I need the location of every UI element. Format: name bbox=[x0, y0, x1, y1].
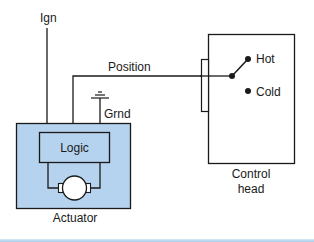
control-head-box bbox=[209, 35, 295, 164]
control-head-tab bbox=[202, 60, 209, 112]
switch-pivot bbox=[229, 73, 235, 79]
actuator-label: Actuator bbox=[53, 211, 98, 225]
position-label: Position bbox=[108, 60, 151, 74]
hot-label: Hot bbox=[256, 52, 275, 66]
control-head-label-line2: head bbox=[238, 182, 265, 196]
cold-contact bbox=[245, 88, 251, 94]
ignition-label: Ign bbox=[40, 11, 57, 25]
actuator-control-diagram: Ign Position Grnd Logic bbox=[0, 0, 314, 242]
logic-label: Logic bbox=[60, 141, 89, 155]
ground-label: Grnd bbox=[104, 107, 131, 121]
hot-contact bbox=[245, 56, 251, 62]
cold-label: Cold bbox=[256, 85, 281, 99]
control-head-label-line1: Control bbox=[232, 167, 271, 181]
